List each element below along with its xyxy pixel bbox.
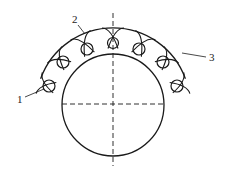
diagram-canvas: 123 1 2 3 xyxy=(0,0,230,178)
callout-label: 3 xyxy=(209,51,215,63)
callout-label: 2 xyxy=(72,13,78,25)
loop-circle xyxy=(43,80,55,92)
loop-curl xyxy=(173,73,184,93)
loop-curl xyxy=(59,47,64,71)
coil-loop xyxy=(170,73,190,94)
callout-label: 1 xyxy=(17,93,23,105)
loop-group xyxy=(36,28,190,94)
loop-curl xyxy=(42,73,53,93)
cross-section-diagram: 123 xyxy=(0,0,230,178)
loop-circle xyxy=(157,56,169,68)
leader-line xyxy=(78,25,85,34)
leader-line xyxy=(182,53,206,57)
loop-curl xyxy=(162,47,167,71)
leader-line xyxy=(25,89,44,97)
loop-circle xyxy=(57,56,69,68)
loop-circle xyxy=(171,80,183,92)
callout-3: 3 xyxy=(182,51,215,63)
callout-1: 1 xyxy=(17,89,44,105)
coil-loop xyxy=(36,73,56,94)
callout-2: 2 xyxy=(72,13,85,34)
